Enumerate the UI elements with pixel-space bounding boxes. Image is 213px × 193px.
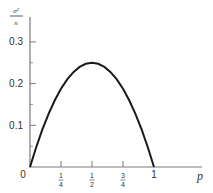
x-tick-label-denominator: 4 <box>121 181 125 188</box>
y-label-denominator: n <box>14 19 18 27</box>
y-axis-label: σ² n <box>10 7 23 27</box>
x-tick-label-numerator: 1 <box>59 172 63 179</box>
x-tick-label-numerator: 3 <box>121 172 125 179</box>
variance-curve <box>30 63 154 167</box>
y-label-numerator: σ² <box>13 7 19 15</box>
x-axis-label: p <box>196 169 203 183</box>
x-tick-label: 1 <box>151 169 157 180</box>
y-tick-label: 0.1 <box>9 120 23 131</box>
x-tick-label-denominator: 4 <box>59 181 63 188</box>
y-tick-label: 0.3 <box>9 36 23 47</box>
axes <box>30 17 202 168</box>
x-tick-label-denominator: 2 <box>90 181 94 188</box>
origin-label: 0 <box>20 169 26 180</box>
y-tick-label: 0.2 <box>9 78 23 89</box>
variance-chart: 0.10.20.301412341 σ² n p <box>0 0 213 193</box>
x-tick-label-numerator: 1 <box>90 172 94 179</box>
